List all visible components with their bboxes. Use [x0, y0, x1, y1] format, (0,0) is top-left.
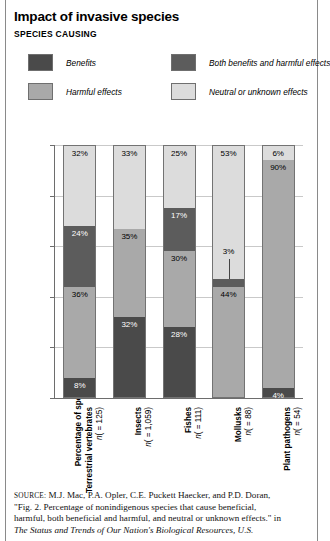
- bar-value-label: 53%: [213, 149, 244, 158]
- bar-insects[interactable]: 33%35%32%: [113, 145, 146, 398]
- legend-item-harmful: Harmful effects: [28, 83, 122, 100]
- legend-swatch-harmful: [28, 83, 53, 100]
- x-axis-label: Insectsn( = 1,059): [134, 407, 154, 497]
- bar-segment: 4%: [262, 388, 295, 398]
- page-rule-left: [5, 0, 6, 541]
- y-axis-line: [54, 145, 55, 399]
- legend-swatch-neutral: [171, 83, 196, 100]
- page-title: Impact of invasive species: [14, 9, 179, 24]
- bar-value-label: 30%: [164, 254, 195, 263]
- x-axis-label-name: Mollusks: [234, 407, 244, 497]
- bar-segment: 25%: [163, 145, 196, 208]
- legend-item-benefits: Benefits: [28, 54, 96, 71]
- bar-segment: [212, 279, 245, 287]
- bar-segment: 32%: [63, 145, 96, 226]
- bar-plant-pathogens[interactable]: 6%90%4%: [262, 145, 295, 398]
- callout-label: 3%: [209, 247, 249, 256]
- x-axis-label: Fishesn( = 111): [184, 407, 204, 497]
- bar-fishes[interactable]: 25%17%30%28%: [163, 145, 196, 398]
- y-axis-tick: [50, 398, 55, 399]
- bar-value-label: 6%: [263, 149, 294, 158]
- legend-label-neutral: Neutral or unknown effects: [209, 87, 308, 97]
- bar-value-label: 24%: [64, 229, 95, 238]
- bar-value-label: 17%: [164, 211, 195, 220]
- x-axis-label: Mollusksn( = 88): [234, 407, 254, 497]
- bar-value-label: 32%: [64, 149, 95, 158]
- bar-segment: 17%: [163, 208, 196, 251]
- x-axis-label-name: Insects: [134, 407, 144, 497]
- x-axis-label-count: n( = 88): [244, 407, 254, 497]
- x-axis-label-count: n( = 125): [95, 407, 105, 497]
- bar-segment: 36%: [63, 287, 96, 378]
- legend-label-benefits: Benefits: [66, 58, 96, 68]
- legend-label-harmful: Harmful effects: [66, 87, 122, 97]
- bar-segment: 24%: [63, 226, 96, 287]
- bar-segment: 90%: [262, 160, 295, 388]
- bar-value-label: 4%: [263, 391, 294, 400]
- bar-segment: 6%: [262, 145, 295, 160]
- bar-value-label: 36%: [64, 290, 95, 299]
- source-prefix: SOURCE:: [14, 491, 46, 500]
- x-axis-label-name: Terrestrial vertebrates: [85, 407, 95, 497]
- page-rule-right: [317, 0, 318, 541]
- bar-value-label: 8%: [64, 381, 95, 390]
- source-line-4: The Status and Trends of Our Nation's Bi…: [14, 525, 253, 535]
- x-axis-label: Plant pathogensn( = 54): [283, 407, 303, 497]
- callout-leader-line: [229, 259, 230, 279]
- y-axis-tick: [50, 246, 55, 247]
- x-axis-label-count: n( = 1,059): [144, 407, 154, 497]
- plot-area: Percentage of species analyzed 100806040…: [55, 145, 303, 398]
- legend-item-both: Both benefits and harmful effects: [171, 54, 330, 71]
- x-axis-label-name: Plant pathogens: [283, 407, 293, 497]
- x-axis-label-name: Fishes: [184, 407, 194, 497]
- x-axis-label-count: n( = 111): [194, 407, 204, 497]
- bar-segment: 30%: [163, 251, 196, 327]
- bar-segment: 32%: [113, 317, 146, 398]
- y-axis-tick: [50, 196, 55, 197]
- source-line-1: M.J. Mac, P.A. Opler, C.E. Puckett Haeck…: [46, 490, 270, 500]
- y-axis-tick: [50, 145, 55, 146]
- x-axis-label: Terrestrial vertebratesn( = 125): [85, 407, 105, 497]
- bar-value-label: 44%: [213, 290, 244, 299]
- source-note: SOURCE: M.J. Mac, P.A. Opler, C.E. Pucke…: [14, 490, 306, 536]
- legend-item-neutral: Neutral or unknown effects: [171, 83, 308, 100]
- bar-value-label: 28%: [164, 330, 195, 339]
- bar-terrestrial-vertebrates[interactable]: 32%24%36%8%: [63, 145, 96, 398]
- bar-segment: 35%: [113, 229, 146, 318]
- source-line-3: harmful, both beneficial and harmful, an…: [14, 513, 281, 523]
- legend-swatch-benefits: [28, 54, 53, 71]
- chart-legend: Benefits Both benefits and harmful effec…: [14, 48, 309, 108]
- bar-value-label: 33%: [114, 149, 145, 158]
- y-axis-tick: [50, 297, 55, 298]
- bar-value-label: 25%: [164, 149, 195, 158]
- x-axis-label-count: n( = 54): [293, 407, 303, 497]
- bar-value-label: 35%: [114, 232, 145, 241]
- bar-segment: 8%: [63, 378, 96, 398]
- bar-segment: 28%: [163, 327, 196, 398]
- y-axis-tick: [50, 347, 55, 348]
- bar-segment: 44%: [212, 287, 245, 398]
- bar-segment: 33%: [113, 145, 146, 228]
- source-line-2: "Fig. 2. Percentage of nonindigenous spe…: [14, 502, 256, 512]
- bar-value-label: 90%: [263, 163, 294, 172]
- bar-value-label: 32%: [114, 320, 145, 329]
- page-subtitle: SPECIES CAUSING: [14, 29, 97, 39]
- legend-label-both: Both benefits and harmful effects: [209, 58, 330, 68]
- legend-swatch-both: [171, 54, 196, 71]
